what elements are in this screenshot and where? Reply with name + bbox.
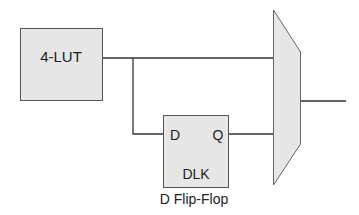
dff-q-port: Q (213, 127, 224, 143)
lut-label: 4-LUT (40, 48, 82, 65)
lut-dff-mux-diagram: 4-LUT D Q DLK D Flip-Flop (0, 0, 359, 215)
dff-block: D Q DLK (164, 116, 229, 188)
wire-lut-to-dff (133, 58, 163, 134)
lut-block: 4-LUT (21, 29, 103, 101)
dff-caption: D Flip-Flop (160, 191, 229, 207)
mux-block (274, 10, 301, 185)
dff-clk-label: DLK (182, 166, 210, 182)
dff-d-port: D (170, 127, 180, 143)
